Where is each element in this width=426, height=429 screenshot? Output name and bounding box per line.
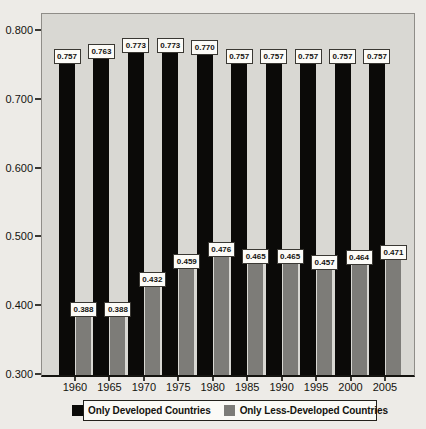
bar-only-less-developed-countries-2000 — [352, 262, 367, 375]
y-tick-mark — [35, 98, 41, 100]
bar-only-less-developed-countries-1995 — [317, 267, 332, 375]
value-label-only-developed-countries-1975: 0.773 — [157, 38, 184, 53]
value-label-only-developed-countries-1980: 0.770 — [191, 40, 218, 55]
value-label-only-less-developed-countries-1965: 0.388 — [104, 302, 131, 317]
bar-only-developed-countries-1970 — [128, 50, 144, 375]
bar-only-developed-countries-2005 — [369, 61, 385, 375]
value-label-only-less-developed-countries-1985: 0.465 — [242, 249, 269, 264]
bar-only-less-developed-countries-1965 — [110, 314, 125, 375]
y-tick-label-0.600: 0.600 — [0, 161, 33, 175]
value-label-only-less-developed-countries-1960: 0.388 — [70, 302, 97, 317]
value-label-only-developed-countries-1965: 0.763 — [88, 44, 115, 59]
value-label-only-less-developed-countries-1990: 0.465 — [277, 249, 304, 264]
y-tick-label-0.400: 0.400 — [0, 298, 33, 312]
bar-only-less-developed-countries-1970 — [145, 284, 160, 375]
bar-only-less-developed-countries-1975 — [179, 266, 194, 375]
y-tick-mark — [35, 373, 41, 375]
y-tick-label-0.300: 0.300 — [0, 367, 33, 381]
value-label-only-less-developed-countries-1970: 0.432 — [139, 272, 166, 287]
y-tick-label-0.500: 0.500 — [0, 229, 33, 243]
bar-only-less-developed-countries-1980 — [214, 254, 229, 375]
bar-only-developed-countries-2000 — [335, 61, 351, 375]
bar-only-less-developed-countries-1960 — [76, 314, 91, 375]
plot-area: 0.7570.7630.7730.7730.7700.7570.7570.757… — [41, 13, 415, 377]
bar-only-developed-countries-1980 — [197, 52, 213, 375]
legend-item-only-developed-countries: Only Developed Countries — [72, 405, 211, 416]
bar-only-developed-countries-1990 — [266, 61, 282, 375]
value-label-only-less-developed-countries-1975: 0.459 — [173, 254, 200, 269]
value-label-only-less-developed-countries-2000: 0.464 — [346, 250, 373, 265]
legend-label-only-less-developed-countries: Only Less-Developed Countries — [240, 405, 388, 416]
bar-only-less-developed-countries-1990 — [283, 261, 298, 375]
legend-label-only-developed-countries: Only Developed Countries — [88, 405, 211, 416]
bar-only-developed-countries-1995 — [300, 61, 316, 375]
value-label-only-less-developed-countries-2005: 0.471 — [380, 245, 407, 260]
value-label-only-developed-countries-1990: 0.757 — [260, 49, 287, 64]
value-label-only-developed-countries-2005: 0.757 — [363, 49, 390, 64]
y-tick-label-0.800: 0.800 — [0, 23, 33, 37]
bar-only-less-developed-countries-1985 — [248, 261, 263, 375]
y-tick-mark — [35, 29, 41, 31]
bar-only-less-developed-countries-2005 — [386, 257, 401, 375]
bar-only-developed-countries-1985 — [231, 61, 247, 375]
bar-only-developed-countries-1960 — [59, 61, 75, 375]
bar-only-developed-countries-1975 — [162, 50, 178, 375]
y-tick-mark — [35, 167, 41, 169]
value-label-only-developed-countries-1960: 0.757 — [54, 49, 81, 64]
legend-item-only-less-developed-countries: Only Less-Developed Countries — [224, 405, 388, 416]
value-label-only-less-developed-countries-1980: 0.476 — [208, 242, 235, 257]
value-label-only-developed-countries-2000: 0.757 — [329, 49, 356, 64]
value-label-only-less-developed-countries-1995: 0.457 — [311, 255, 338, 270]
y-tick-label-0.700: 0.700 — [0, 92, 33, 106]
only-less-developed-countries-swatch-icon — [224, 405, 235, 416]
value-label-only-developed-countries-1985: 0.757 — [226, 49, 253, 64]
chart-legend: Only Developed CountriesOnly Less-Develo… — [83, 400, 377, 421]
value-label-only-developed-countries-1995: 0.757 — [295, 49, 322, 64]
population-replacement-bar-chart: 0.7570.7630.7730.7730.7700.7570.7570.757… — [0, 0, 426, 429]
y-tick-mark — [35, 235, 41, 237]
bar-only-developed-countries-1965 — [93, 56, 109, 375]
only-developed-countries-swatch-icon — [72, 405, 83, 416]
value-label-only-developed-countries-1970: 0.773 — [122, 38, 149, 53]
y-tick-mark — [35, 304, 41, 306]
x-tick-label-2005: 2005 — [365, 381, 405, 393]
